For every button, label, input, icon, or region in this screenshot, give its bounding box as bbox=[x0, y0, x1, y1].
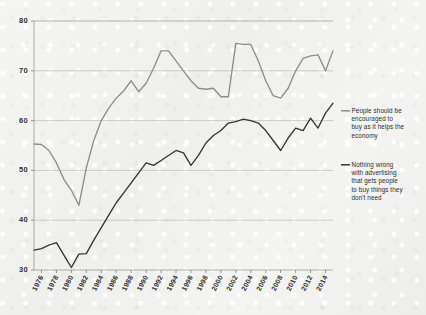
line-chart: 304050607080 197619781980198219841986198… bbox=[0, 0, 426, 315]
legend-item-nothing-wrong: Nothing wrongwith advertisingthat gets p… bbox=[341, 161, 403, 201]
x-tick-label-1994: 1994 bbox=[165, 274, 179, 292]
legend-label-line: to buy things they bbox=[352, 186, 404, 194]
x-tick-label-2014: 2014 bbox=[315, 274, 329, 292]
series-line-2 bbox=[34, 103, 333, 267]
legend-item-encouraged: People should beencouraged tobuy as it h… bbox=[341, 107, 405, 140]
gridlines bbox=[34, 21, 333, 220]
x-tick-label-2010: 2010 bbox=[285, 274, 299, 292]
chart-legend: People should beencouraged tobuy as it h… bbox=[341, 107, 405, 201]
legend-label-line: don't need bbox=[352, 194, 383, 201]
x-tick-label-2008: 2008 bbox=[270, 274, 284, 292]
x-tick-label-2000: 2000 bbox=[210, 274, 224, 292]
legend-label-line: economy bbox=[352, 132, 379, 140]
legend-label-line: buy as it helps the bbox=[352, 123, 405, 131]
y-tick-label-30: 30 bbox=[19, 265, 28, 274]
axes bbox=[34, 21, 333, 270]
chart-canvas: 304050607080 197619781980198219841986198… bbox=[0, 0, 426, 315]
y-tick-label-40: 40 bbox=[19, 215, 28, 224]
legend-label-line: encouraged to bbox=[352, 115, 394, 123]
x-tick-label-2002: 2002 bbox=[225, 274, 239, 292]
x-axis-tick-labels: 1976197819801982198419861988199019921994… bbox=[31, 270, 329, 292]
x-tick-label-1978: 1978 bbox=[46, 274, 60, 292]
series-line-1 bbox=[34, 43, 333, 205]
x-tick-label-1976: 1976 bbox=[31, 274, 45, 292]
x-tick-label-1996: 1996 bbox=[180, 274, 194, 292]
y-tick-label-60: 60 bbox=[19, 116, 28, 125]
x-tick-label-1992: 1992 bbox=[150, 274, 164, 292]
x-tick-label-1986: 1986 bbox=[105, 274, 119, 292]
x-tick-label-1988: 1988 bbox=[120, 274, 134, 292]
legend-label-line: People should be bbox=[352, 107, 403, 115]
x-tick-label-1984: 1984 bbox=[90, 274, 104, 292]
legend-label-line: Nothing wrong bbox=[352, 161, 394, 169]
y-tick-label-50: 50 bbox=[19, 165, 28, 174]
x-tick-label-2006: 2006 bbox=[255, 274, 269, 292]
data-series bbox=[34, 43, 333, 267]
x-tick-label-1980: 1980 bbox=[61, 274, 75, 292]
x-tick-label-1990: 1990 bbox=[135, 274, 149, 292]
y-tick-label-80: 80 bbox=[19, 16, 28, 25]
legend-label-line: with advertising bbox=[351, 169, 397, 177]
y-axis-tick-labels: 304050607080 bbox=[19, 16, 34, 274]
x-tick-label-2004: 2004 bbox=[240, 274, 254, 292]
x-tick-label-1998: 1998 bbox=[195, 274, 209, 292]
x-tick-label-1982: 1982 bbox=[76, 274, 90, 292]
legend-label-line: that gets people bbox=[352, 177, 399, 185]
x-tick-label-2012: 2012 bbox=[300, 274, 314, 292]
y-tick-label-70: 70 bbox=[19, 66, 28, 75]
